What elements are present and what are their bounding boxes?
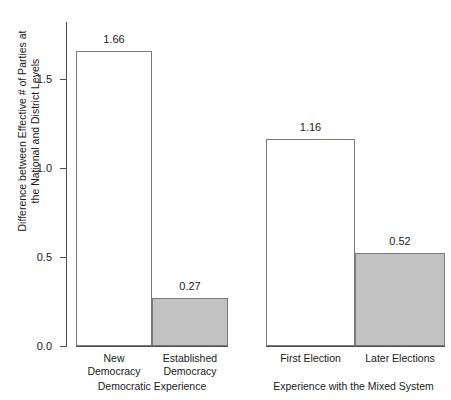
y-tick-label-3: 1.5 <box>22 74 52 85</box>
y-axis-line <box>66 22 67 347</box>
y-tick-0 <box>60 346 66 347</box>
category-label-established-democracy-line-1: Established <box>152 352 228 365</box>
y-tick-label-2: 1.0 <box>22 163 52 174</box>
bar-new-democracy <box>76 51 152 346</box>
group-2-baseline <box>266 346 445 347</box>
y-tick-label-1: 0.5 <box>22 252 52 263</box>
group-1-baseline <box>76 346 228 347</box>
bar-chart: Difference between Effective # of Partie… <box>0 0 451 400</box>
bar-value-later-elections: 0.52 <box>355 236 445 247</box>
category-label-new-democracy: New Democracy <box>76 352 152 378</box>
y-tick-3 <box>60 79 66 80</box>
y-axis-label: Difference between Effective # of Partie… <box>16 6 42 256</box>
group-caption-democratic-experience: Democratic Experience <box>76 380 228 393</box>
y-axis-label-line-1: Difference between Effective # of Partie… <box>16 6 29 256</box>
bar-value-new-democracy: 1.66 <box>76 34 152 45</box>
y-tick-2 <box>60 168 66 169</box>
y-axis-label-line-2: the National and District Levels <box>29 6 42 256</box>
bar-later-elections <box>355 253 445 346</box>
bar-first-election <box>266 139 355 346</box>
y-tick-1 <box>60 257 66 258</box>
group-caption-mixed-system: Experience with the Mixed System <box>256 380 451 393</box>
y-tick-label-0: 0.0 <box>22 341 52 352</box>
bar-value-established-democracy: 0.27 <box>152 281 228 292</box>
category-label-later-elections: Later Elections <box>355 352 445 365</box>
category-label-new-democracy-line-2: Democracy <box>76 365 152 378</box>
category-label-new-democracy-line-1: New <box>76 352 152 365</box>
bar-value-first-election: 1.16 <box>266 122 355 133</box>
bar-established-democracy <box>152 298 228 346</box>
category-label-established-democracy: Established Democracy <box>152 352 228 378</box>
category-label-first-election: First Election <box>266 352 355 365</box>
category-label-established-democracy-line-2: Democracy <box>152 365 228 378</box>
